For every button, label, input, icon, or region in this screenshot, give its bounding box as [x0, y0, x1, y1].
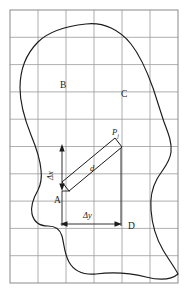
figure-canvas: B C A D Pj d Δx Δy: [0, 0, 194, 298]
distance-label-d: d: [90, 164, 94, 173]
diagram-svg: [0, 0, 194, 298]
point-label-pj: Pj: [112, 128, 119, 139]
delta-x-arrow-top: [59, 144, 64, 152]
delta-y-arrow-left: [60, 221, 68, 226]
region-label-c: C: [121, 90, 127, 100]
region-label-b: B: [60, 81, 66, 91]
delta-y-label: Δy: [83, 211, 92, 220]
region-label-d: D: [128, 222, 135, 232]
region-label-a: A: [54, 196, 61, 206]
delta-x-dimension: [59, 144, 70, 191]
delta-x-arrow-bottom: [59, 184, 64, 192]
delta-x-label: Δx: [46, 171, 55, 180]
point-label-subscript: j: [117, 133, 119, 139]
